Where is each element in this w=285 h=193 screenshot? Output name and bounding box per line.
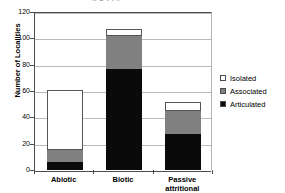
bar-segment-articulated[interactable] (47, 162, 83, 170)
stacked-bar-chart: n = 213 Number of Localities IsolatedAss… (0, 0, 285, 193)
gridline (35, 171, 211, 172)
legend-swatch-icon (220, 88, 226, 94)
legend-swatch-icon (220, 101, 226, 107)
bar-segment-associated[interactable] (106, 36, 142, 69)
x-tick-label-line: Abiotic (31, 175, 97, 184)
x-tick-label-line: Passive (149, 175, 215, 184)
bar-segment-associated[interactable] (165, 111, 201, 135)
y-tick-mark (30, 117, 34, 118)
legend-label: Articulated (230, 100, 265, 109)
y-tick-label: 60 (4, 87, 30, 94)
x-tick-mark (93, 170, 94, 174)
legend-label: Associated (230, 87, 267, 96)
bar-segment-associated[interactable] (47, 150, 83, 162)
legend-item[interactable]: Associated (220, 85, 267, 97)
x-tick-mark (153, 170, 154, 174)
y-tick-label: 0 (4, 166, 30, 173)
x-tick-label-line: Biotic (90, 175, 156, 184)
y-tick-label: 100 (4, 34, 30, 41)
bar-segment-isolated[interactable] (165, 102, 201, 111)
x-tick-mark (34, 170, 35, 174)
x-tick-label: Passiveattritional (149, 175, 215, 193)
legend-label: Isolated (230, 74, 256, 83)
legend-item[interactable]: Articulated (220, 98, 267, 110)
x-tick-label: Abiotic (31, 175, 97, 184)
plot-area (34, 12, 212, 170)
y-tick-mark (30, 144, 34, 145)
chart-legend: IsolatedAssociatedArticulated (220, 72, 267, 111)
y-tick-mark (30, 65, 34, 66)
y-tick-mark (30, 91, 34, 92)
legend-swatch-icon (220, 75, 226, 81)
y-tick-label: 40 (4, 113, 30, 120)
y-tick-mark (30, 38, 34, 39)
gridline (35, 13, 211, 14)
bar-segment-articulated[interactable] (106, 69, 142, 170)
legend-item[interactable]: Isolated (220, 72, 267, 84)
x-tick-mark (212, 170, 213, 174)
x-tick-label: Biotic (90, 175, 156, 184)
y-tick-label: 20 (4, 140, 30, 147)
y-tick-mark (30, 12, 34, 13)
x-tick-label-line: attritional (149, 184, 215, 193)
chart-title: n = 213 (0, 0, 212, 1)
bar-segment-isolated[interactable] (106, 29, 142, 36)
y-tick-label: 120 (4, 8, 30, 15)
y-tick-label: 80 (4, 61, 30, 68)
bar-segment-isolated[interactable] (47, 90, 83, 151)
bar-segment-articulated[interactable] (165, 134, 201, 170)
